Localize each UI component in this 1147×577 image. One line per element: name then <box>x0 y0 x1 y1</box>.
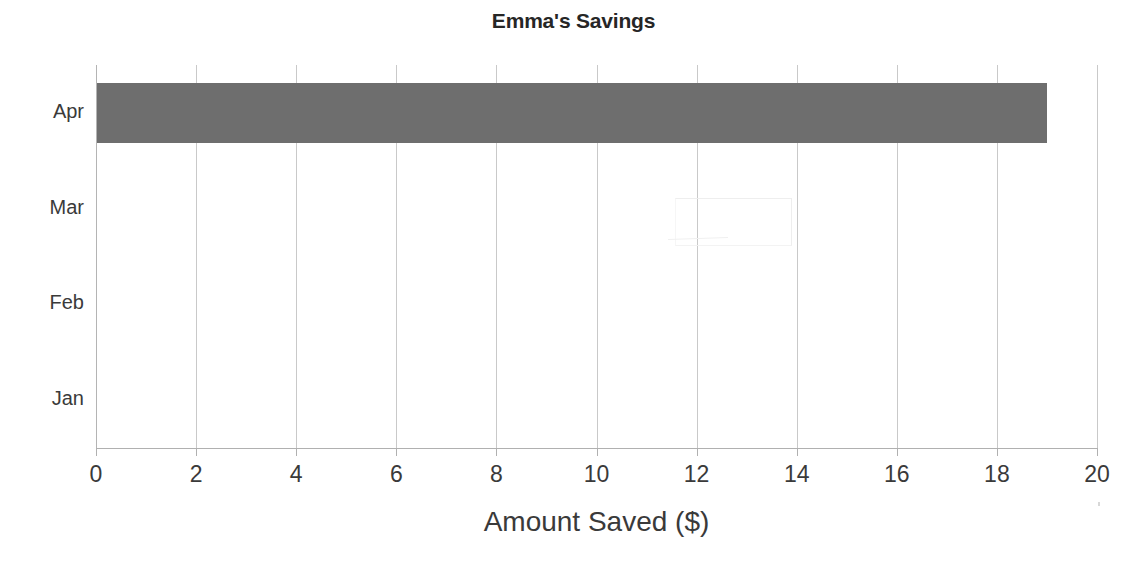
x-axis-title: Amount Saved ($) <box>96 506 1097 538</box>
y-axis-category-label: Apr <box>53 100 84 123</box>
x-axis-tick <box>196 449 197 456</box>
x-axis-tick-label: 0 <box>66 461 126 488</box>
bar-chart: Emma's Savings JanFebMarApr 024681012141… <box>0 0 1147 577</box>
x-axis-tick-label: 4 <box>266 461 326 488</box>
x-axis-tick-label: 18 <box>967 461 1027 488</box>
scan-speck-artifact <box>1098 502 1100 506</box>
gridline <box>1097 65 1098 448</box>
x-axis-tick-label: 12 <box>667 461 727 488</box>
plot-area <box>96 65 1097 448</box>
x-axis-tick-label: 6 <box>366 461 426 488</box>
x-axis-tick <box>897 449 898 456</box>
x-axis-tick <box>997 449 998 456</box>
x-axis-tick <box>296 449 297 456</box>
x-axis-tick-label: 16 <box>867 461 927 488</box>
x-axis-tick <box>597 449 598 456</box>
x-axis-tick <box>96 449 97 456</box>
x-axis-tick <box>697 449 698 456</box>
chart-title: Emma's Savings <box>0 9 1147 33</box>
x-axis-tick <box>1097 449 1098 456</box>
y-axis-category-label: Feb <box>50 291 84 314</box>
x-axis-tick-label: 2 <box>166 461 226 488</box>
x-axis-tick <box>496 449 497 456</box>
y-axis-category-label: Mar <box>50 196 84 219</box>
value-axis-line <box>96 65 97 449</box>
x-axis-tick <box>797 449 798 456</box>
x-axis-tick-label: 8 <box>466 461 526 488</box>
bar <box>96 83 1047 142</box>
x-axis-tick <box>396 449 397 456</box>
x-axis-tick-label: 14 <box>767 461 827 488</box>
x-axis-tick-label: 20 <box>1067 461 1127 488</box>
y-axis-category-label: Jan <box>52 387 84 410</box>
x-axis-tick-label: 10 <box>567 461 627 488</box>
